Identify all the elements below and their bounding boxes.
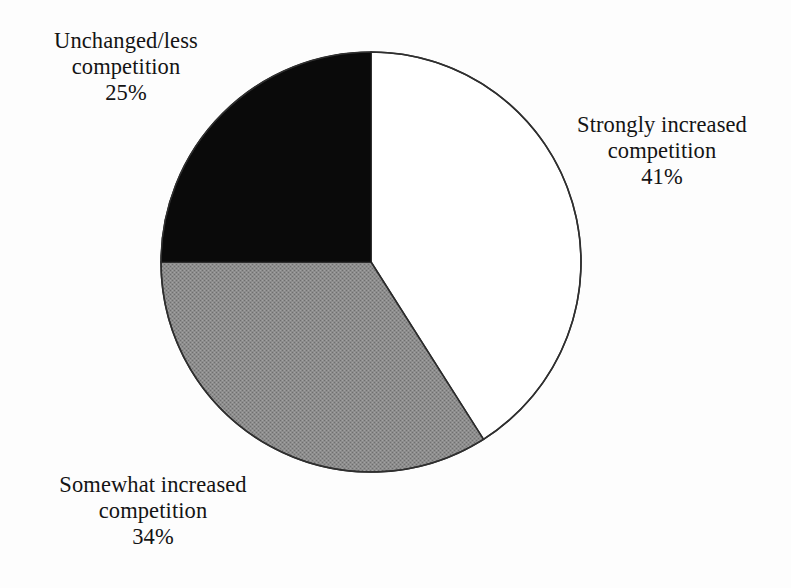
pie-label-somewhat-increased: Somewhat increased competition 34% xyxy=(22,472,284,550)
pie-label-strongly-increased: Strongly increased competition 41% xyxy=(542,112,782,190)
pie-label-somewhat-increased-line1: Somewhat increased xyxy=(22,472,284,498)
pie-label-somewhat-increased-percent: 34% xyxy=(22,524,284,550)
pie-label-unchanged-less-line1: Unchanged/less xyxy=(8,28,244,54)
pie-label-strongly-increased-percent: 41% xyxy=(542,164,782,190)
pie-label-unchanged-less: Unchanged/less competition 25% xyxy=(8,28,244,106)
pie-label-strongly-increased-line2: competition xyxy=(542,138,782,164)
pie-label-somewhat-increased-line2: competition xyxy=(22,498,284,524)
pie-label-unchanged-less-percent: 25% xyxy=(8,80,244,106)
pie-label-strongly-increased-line1: Strongly increased xyxy=(542,112,782,138)
pie-label-unchanged-less-line2: competition xyxy=(8,54,244,80)
pie-chart-figure: Unchanged/less competition 25% Strongly … xyxy=(0,0,791,588)
